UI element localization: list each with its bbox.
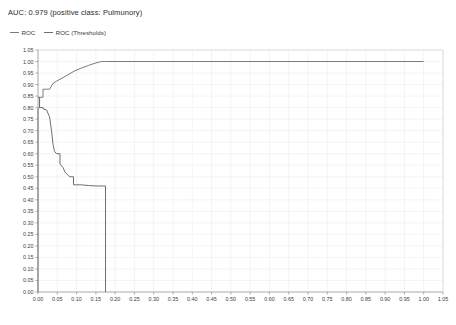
x-tick-label: 1.05 bbox=[438, 296, 449, 302]
x-tick-label: 0.65 bbox=[283, 296, 294, 302]
grid-lines bbox=[38, 50, 443, 292]
y-tick-label: 0.05 bbox=[23, 277, 34, 283]
y-tick-label: 0.00 bbox=[23, 289, 34, 295]
x-tick-label: 0.55 bbox=[245, 296, 256, 302]
roc-chart: AUC: 0.979 (positive class: Pulmunory) R… bbox=[0, 0, 456, 325]
y-tick-label: 0.60 bbox=[23, 151, 34, 157]
x-tick-label: 0.05 bbox=[52, 296, 63, 302]
x-tick-label: 0.90 bbox=[380, 296, 391, 302]
chart-title: AUC: 0.979 (positive class: Pulmunory) bbox=[8, 8, 142, 17]
series-line-roc-thresholds bbox=[38, 97, 106, 292]
y-tick-label: 0.80 bbox=[23, 105, 34, 111]
x-tick-label: 0.60 bbox=[264, 296, 275, 302]
y-tick-label: 0.75 bbox=[23, 116, 34, 122]
y-tick-label: 0.95 bbox=[23, 70, 34, 76]
y-tick-label: 0.20 bbox=[23, 243, 34, 249]
x-tick-label: 0.40 bbox=[187, 296, 198, 302]
x-tick-label: 0.15 bbox=[91, 296, 102, 302]
y-tick-label: 1.00 bbox=[23, 59, 34, 65]
x-tick-label: 0.45 bbox=[206, 296, 217, 302]
plot-area: 0.000.050.100.150.200.250.300.350.400.45… bbox=[0, 40, 456, 325]
legend-label-roc-thresholds: ROC (Thresholds) bbox=[56, 29, 106, 36]
y-tick-label: 0.15 bbox=[23, 254, 34, 260]
y-tick-label: 0.10 bbox=[23, 266, 34, 272]
y-tick-label: 0.50 bbox=[23, 174, 34, 180]
y-tick-label: 0.40 bbox=[23, 197, 34, 203]
y-tick-label: 1.05 bbox=[23, 47, 34, 53]
y-tick-label: 0.30 bbox=[23, 220, 34, 226]
plot-svg: 0.000.050.100.150.200.250.300.350.400.45… bbox=[0, 40, 456, 325]
x-tick-label: 0.10 bbox=[71, 296, 82, 302]
legend-item-roc-thresholds[interactable]: ROC (Thresholds) bbox=[44, 29, 106, 36]
y-tick-label: 0.85 bbox=[23, 93, 34, 99]
x-tick-label: 0.95 bbox=[399, 296, 410, 302]
x-tick-label: 0.50 bbox=[226, 296, 237, 302]
x-tick-label: 0.30 bbox=[148, 296, 159, 302]
y-tick-label: 0.45 bbox=[23, 185, 34, 191]
legend-swatch-roc bbox=[10, 32, 19, 34]
legend-item-roc[interactable]: ROC bbox=[10, 29, 35, 36]
x-tick-label: 0.80 bbox=[341, 296, 352, 302]
x-axis-ticks: 0.000.050.100.150.200.250.300.350.400.45… bbox=[33, 292, 449, 302]
legend-swatch-roc-thresholds bbox=[44, 32, 53, 34]
x-tick-label: 0.20 bbox=[110, 296, 121, 302]
y-tick-label: 0.55 bbox=[23, 162, 34, 168]
x-tick-label: 0.25 bbox=[129, 296, 140, 302]
x-tick-label: 0.85 bbox=[361, 296, 372, 302]
x-tick-label: 0.35 bbox=[168, 296, 179, 302]
y-tick-label: 0.35 bbox=[23, 208, 34, 214]
x-tick-label: 1.00 bbox=[418, 296, 429, 302]
y-axis-ticks: 0.000.050.100.150.200.250.300.350.400.45… bbox=[23, 47, 38, 295]
chart-legend: ROC ROC (Thresholds) bbox=[10, 29, 106, 36]
legend-label-roc: ROC bbox=[22, 29, 36, 36]
x-tick-label: 0.00 bbox=[33, 296, 44, 302]
y-tick-label: 0.25 bbox=[23, 231, 34, 237]
x-tick-label: 0.70 bbox=[303, 296, 314, 302]
y-tick-label: 0.65 bbox=[23, 139, 34, 145]
x-tick-label: 0.75 bbox=[322, 296, 333, 302]
y-tick-label: 0.90 bbox=[23, 82, 34, 88]
y-tick-label: 0.70 bbox=[23, 128, 34, 134]
